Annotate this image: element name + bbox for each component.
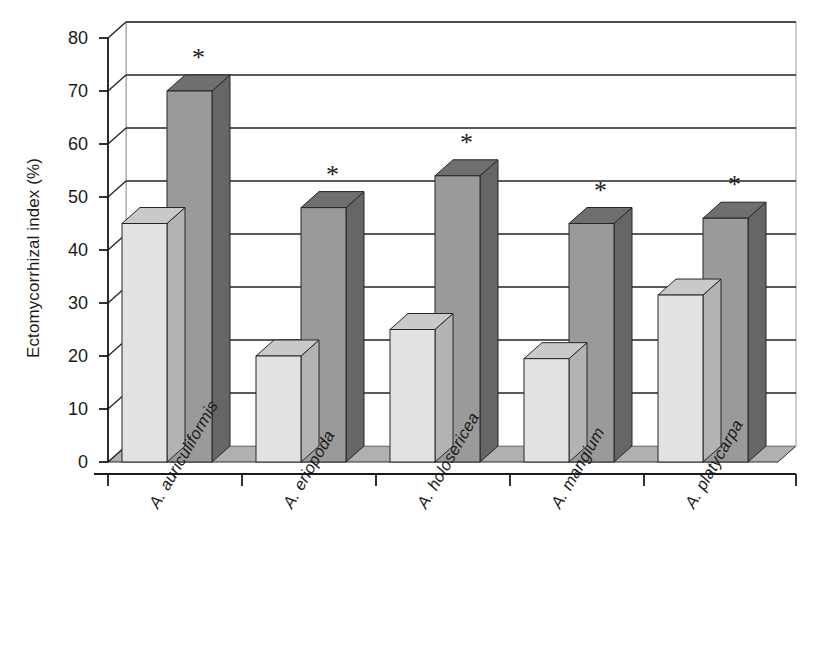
bar <box>658 279 721 462</box>
bar <box>256 340 319 462</box>
significance-asterisk: * <box>187 45 211 71</box>
significance-asterisk: * <box>321 162 345 188</box>
bar <box>524 343 587 462</box>
plot-area <box>0 0 822 655</box>
bar <box>390 314 453 463</box>
bar-chart: Ectomycorrhizal index (%) 01020304050607… <box>0 0 822 655</box>
bar <box>122 208 185 463</box>
significance-asterisk: * <box>723 172 747 198</box>
significance-asterisk: * <box>455 130 479 156</box>
significance-asterisk: * <box>589 178 613 204</box>
